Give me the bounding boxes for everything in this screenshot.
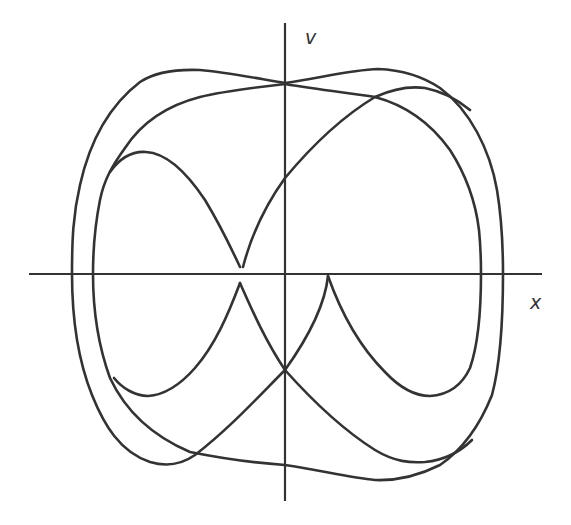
inner-right-loop (328, 274, 481, 396)
outer-bottom-right-arc (285, 274, 503, 480)
inner-left-loop-lower (114, 283, 240, 396)
center-left-cusp-arc (240, 283, 285, 370)
inner-left-loop-upper (110, 152, 240, 267)
v-axis-label: v (305, 26, 317, 48)
outer-top-right-lobe (285, 69, 503, 274)
crossing-top-right-arc (285, 84, 481, 274)
lower-right-crossing-arc (285, 370, 472, 462)
phase-portrait-diagram: v x (0, 0, 571, 525)
middle-bottom-left-arc (93, 274, 285, 465)
x-axis-label: x (529, 291, 542, 313)
outer-top-left-lobe (72, 70, 285, 274)
outer-bottom-left-arc (72, 274, 285, 464)
center-right-cusp-arc (285, 276, 328, 370)
rising-center-arc (243, 87, 470, 267)
